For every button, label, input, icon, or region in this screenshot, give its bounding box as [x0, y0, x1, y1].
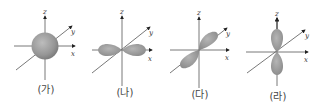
orbital-lobe-negative-x [98, 44, 122, 56]
s-orbital-sphere [32, 33, 59, 60]
x-label: x [148, 55, 152, 63]
panel-px-orbital: z x y [92, 8, 154, 86]
x-label: x [304, 56, 308, 64]
panel-pz-orbital: z x y [246, 10, 310, 86]
y-label: y [225, 30, 231, 38]
orbital-lobe-positive-y [199, 32, 218, 50]
y-label: y [70, 28, 76, 36]
y-label: y [304, 32, 310, 40]
panel-label-ga: (가) [38, 81, 55, 96]
panel-label-ra: (라) [270, 88, 287, 103]
orbital-lobe-positive-z [271, 29, 283, 52]
x-label: x [225, 54, 229, 62]
x-label: x [71, 50, 75, 58]
y-label: y [148, 29, 154, 37]
z-label: z [274, 10, 279, 18]
orbital-lobe-negative-y [180, 50, 199, 68]
panel-label-da: (다) [192, 86, 209, 101]
z-label: z [42, 8, 47, 16]
panel-s-orbital: z x y [14, 8, 76, 80]
orbital-lobe-negative-z [271, 52, 283, 75]
orbital-lobe-positive-x [122, 44, 146, 56]
panel-py-orbital: z x y [170, 9, 231, 88]
z-label: z [196, 9, 201, 17]
z-label: z [119, 8, 124, 16]
panel-label-na: (나) [117, 84, 134, 99]
